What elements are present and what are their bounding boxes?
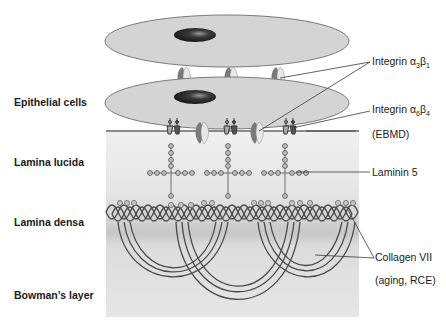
laminin-5-group (147, 144, 309, 199)
callout-integrin-a3b1: Integrin α3β1 (372, 55, 430, 69)
label-bowmans-layer: Bowman’s layer (14, 289, 94, 301)
callout-collagen-note: (aging, RCE) (375, 274, 436, 286)
epithelial-cell-top (105, 15, 349, 67)
callout-laminin-5: Laminin 5 (372, 166, 418, 178)
label-lamina-densa: Lamina densa (14, 216, 84, 228)
callout-text: Integrin (372, 103, 410, 115)
callout-integrin-a6b4: Integrin α6β4 (372, 103, 430, 117)
nucleus-icon (174, 28, 216, 42)
label-epithelial-cells: Epithelial cells (14, 96, 87, 108)
callout-ebmd: (EBMD) (372, 128, 409, 140)
nucleus-icon (174, 90, 216, 104)
beta-subscript: 1 (426, 62, 430, 69)
diagram: Epithelial cells Lamina lucida Lamina de… (0, 0, 446, 328)
callout-collagen-vii: Collagen VII (375, 251, 432, 263)
label-lamina-lucida: Lamina lucida (14, 156, 84, 168)
callout-text: Integrin (372, 55, 410, 67)
beta-subscript: 4 (426, 110, 430, 117)
basement-membrane-region (106, 131, 359, 317)
